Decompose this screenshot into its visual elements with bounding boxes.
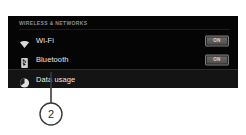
data-usage-icon bbox=[19, 74, 30, 85]
settings-row-label-wifi: Wi-Fi bbox=[36, 36, 54, 45]
bluetooth-toggle[interactable]: ON bbox=[205, 54, 229, 65]
settings-row-wifi[interactable]: Wi-Fi ON bbox=[8, 31, 238, 50]
wifi-icon bbox=[19, 35, 30, 46]
wireless-networks-settings-panel: WIRELESS & NETWORKS Wi-Fi ON Bluetooth O… bbox=[8, 16, 238, 88]
settings-row-label-data-usage: Data usage bbox=[36, 75, 75, 84]
section-header-wireless-networks: WIRELESS & NETWORKS bbox=[19, 20, 87, 26]
wifi-toggle-label: ON bbox=[213, 38, 220, 43]
callout-circle bbox=[40, 103, 62, 125]
wifi-toggle[interactable]: ON bbox=[205, 35, 229, 46]
section-divider bbox=[19, 29, 230, 30]
settings-row-data-usage[interactable]: Data usage bbox=[8, 69, 238, 88]
settings-row-bluetooth[interactable]: Bluetooth ON bbox=[8, 50, 238, 69]
bluetooth-icon bbox=[19, 54, 30, 65]
callout-number: 2 bbox=[48, 108, 54, 120]
settings-row-label-bluetooth: Bluetooth bbox=[36, 55, 69, 64]
bluetooth-toggle-label: ON bbox=[213, 57, 220, 62]
